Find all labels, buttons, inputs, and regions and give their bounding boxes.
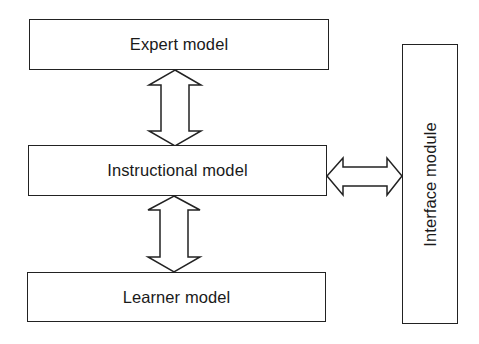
instructional-model-box: Instructional model bbox=[28, 145, 327, 196]
expert-model-box: Expert model bbox=[29, 19, 329, 70]
learner-model-box: Learner model bbox=[27, 272, 326, 322]
arrow-instructional-learner bbox=[148, 196, 200, 272]
expert-model-label: Expert model bbox=[130, 35, 228, 54]
learner-model-label: Learner model bbox=[123, 288, 231, 307]
interface-module-label: Interface module bbox=[421, 122, 440, 247]
arrow-expert-instructional bbox=[149, 70, 201, 146]
interface-module-box: Interface module bbox=[402, 44, 458, 324]
arrow-instructional-interface bbox=[327, 158, 402, 195]
instructional-model-label: Instructional model bbox=[107, 161, 247, 180]
